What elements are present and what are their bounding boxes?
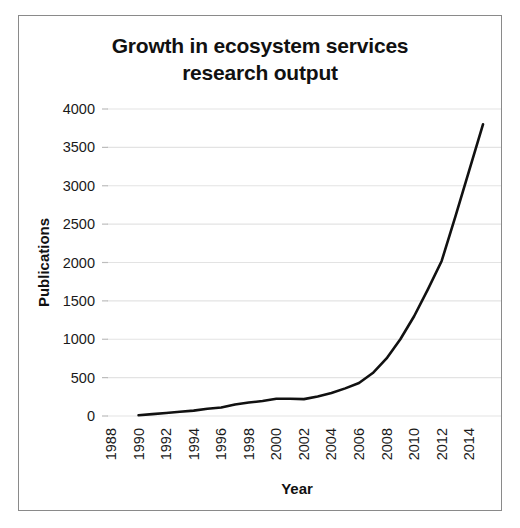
x-tick-label: 2002 bbox=[296, 428, 312, 460]
x-tick-label: 1998 bbox=[241, 428, 257, 460]
x-tick-label: 2004 bbox=[323, 428, 339, 460]
chart-figure: Growth in ecosystem services research ou… bbox=[18, 15, 502, 511]
y-tick-label: 1000 bbox=[63, 331, 95, 347]
publications-series-line bbox=[139, 124, 483, 415]
x-tick-label: 2006 bbox=[351, 428, 367, 460]
x-tick-label: 1988 bbox=[103, 428, 119, 460]
x-tick-label: 2000 bbox=[268, 428, 284, 460]
x-tick-label: 1992 bbox=[158, 428, 174, 460]
x-tick-label: 2008 bbox=[379, 428, 395, 460]
y-axis-title: Publications bbox=[35, 218, 52, 307]
x-axis-title: Year bbox=[281, 480, 313, 497]
y-tick-label: 0 bbox=[87, 408, 95, 424]
y-tick-label: 3000 bbox=[63, 178, 95, 194]
y-axis-tick-labels: 05001000150020002500300035004000 bbox=[63, 101, 95, 424]
tick-marks bbox=[102, 109, 108, 416]
y-tick-label: 1500 bbox=[63, 293, 95, 309]
y-tick-label: 3500 bbox=[63, 139, 95, 155]
line-chart-plot: 05001000150020002500300035004000 1988199… bbox=[19, 16, 503, 512]
y-tick-label: 500 bbox=[71, 370, 95, 386]
y-tick-label: 2000 bbox=[63, 255, 95, 271]
y-tick-label: 4000 bbox=[63, 101, 95, 117]
x-tick-label: 2014 bbox=[461, 428, 477, 460]
y-tick-label: 2500 bbox=[63, 216, 95, 232]
x-tick-label: 1996 bbox=[213, 428, 229, 460]
x-tick-label: 1990 bbox=[131, 428, 147, 460]
x-tick-label: 1994 bbox=[186, 428, 202, 460]
x-axis-tick-labels: 1988199019921994199619982000200220042006… bbox=[103, 428, 477, 460]
x-tick-label: 2012 bbox=[434, 428, 450, 460]
x-tick-label: 2010 bbox=[406, 428, 422, 460]
